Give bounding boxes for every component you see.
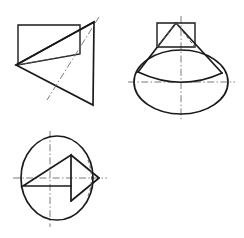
cone-right-slant-edge — [176, 23, 222, 73]
stem-rectangle — [157, 23, 195, 47]
cone-base-front-arc — [138, 72, 222, 82]
view-front-elevation — [128, 16, 235, 120]
technical-drawing-canvas — [0, 0, 244, 238]
view-pictorial-oblique — [16, 17, 99, 105]
inner-triangle — [23, 155, 71, 186]
view-plan — [13, 131, 107, 227]
apex-point-lower-edge — [71, 178, 99, 201]
apex-point-upper-edge — [71, 155, 99, 178]
drawing-sheet — [0, 0, 244, 238]
